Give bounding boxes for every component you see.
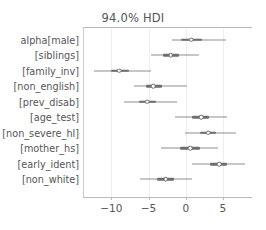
row-label-early_ident: [early_ident] — [0, 158, 79, 169]
row-label-prev_disab: [prev_disab] — [0, 96, 79, 107]
row-label-siblings: [siblings] — [0, 50, 79, 61]
gridline-x--10 — [111, 29, 112, 197]
axes-left-spine — [83, 27, 84, 198]
axes-bottom-spine — [83, 197, 252, 198]
xticklabel--5: −5 — [129, 202, 169, 214]
xtick--5 — [149, 197, 150, 200]
xtick-5 — [223, 197, 224, 200]
point-estimate-non_english — [151, 84, 156, 89]
xtick-0 — [186, 197, 187, 200]
row-label-non_english: [non_english] — [0, 81, 79, 92]
point-estimate-early_ident — [217, 162, 222, 167]
point-estimate-age_test — [199, 115, 204, 120]
row-label-mother_hs: [mother_hs] — [0, 143, 79, 154]
point-estimate-non_severe_hl — [206, 131, 211, 136]
row-label-age_test: [age_test] — [0, 112, 79, 123]
point-estimate-non_white — [163, 177, 168, 182]
point-estimate-prev_disab — [145, 99, 150, 104]
y-axis-category-labels: alpha[male][siblings][family_inv][non_en… — [0, 27, 79, 198]
row-label-alphamale: alpha[male] — [0, 34, 79, 45]
point-estimate-family_inv — [117, 68, 122, 73]
xtick--10 — [111, 197, 112, 200]
point-estimate-alphamale — [189, 37, 194, 42]
row-label-non_white: [non_white] — [0, 174, 79, 185]
point-estimate-mother_hs — [188, 146, 193, 151]
xticklabel-0: 0 — [166, 202, 206, 214]
forest-plot-figure: 94.0% HDI alpha[male][siblings][family_i… — [0, 0, 266, 230]
xticklabel-5: 5 — [203, 202, 243, 214]
xticklabel--10: −10 — [91, 202, 131, 214]
gridline-x-5 — [223, 29, 224, 197]
chart-title: 94.0% HDI — [0, 11, 266, 25]
row-label-family_inv: [family_inv] — [0, 65, 79, 76]
point-estimate-siblings — [169, 53, 174, 58]
axes-top-spine — [83, 27, 252, 28]
gridline-x--5 — [149, 29, 150, 197]
plot-axes: −10−505 — [83, 27, 252, 198]
row-label-non_severe_hl: [non_severe_hl] — [0, 127, 79, 138]
